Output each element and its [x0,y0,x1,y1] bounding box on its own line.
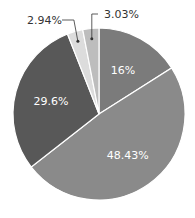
slice-label: 16% [111,64,135,77]
slice-label-outside: 3.03% [104,8,139,21]
pie-chart: 16%48.43%29.6%2.94%3.03% [0,0,195,218]
leader-dot [90,37,93,40]
slice-label: 29.6% [33,95,68,108]
slice-label-outside: 2.94% [27,14,62,27]
slice-label: 48.43% [107,149,149,162]
pie-slices [13,28,185,200]
leader-dot [76,40,79,43]
